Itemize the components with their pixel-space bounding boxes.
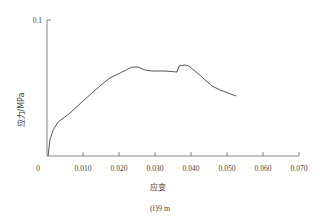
y-axis-label: 应力/MPa (16, 92, 26, 127)
x-tick-label: 0.010 (75, 164, 92, 173)
x-axis-label: 应变 (150, 182, 166, 192)
x-tick-label: 0.040 (183, 164, 200, 173)
x-tick-label: 0.020 (111, 164, 128, 173)
y-ticks: 0.1 (33, 16, 43, 25)
stress-strain-chart: 00.0100.0200.0300.0400.0500.0600.070 0.1… (0, 0, 320, 224)
axes (47, 20, 299, 156)
stress-strain-curve (48, 65, 236, 156)
x-tick-label: 0.030 (147, 164, 164, 173)
x-tick-label: 0.070 (291, 164, 308, 173)
figure-caption: (f)9 m (0, 204, 320, 213)
x-tick-label: 0.060 (255, 164, 272, 173)
x-tick-label: 0 (36, 164, 40, 173)
y-tick-label: 0.1 (33, 16, 43, 25)
x-tick-label: 0.050 (219, 164, 236, 173)
x-ticks: 00.0100.0200.0300.0400.0500.0600.070 (36, 152, 308, 173)
